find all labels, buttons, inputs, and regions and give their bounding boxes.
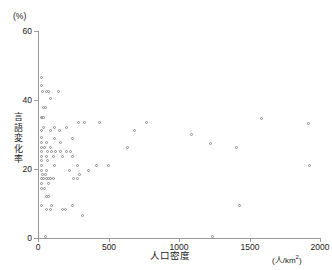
data-point — [47, 90, 50, 93]
data-point — [190, 133, 193, 136]
data-point — [41, 90, 44, 93]
scatter-chart: (%) 言語変化率 人口密度 (人/km2) 02040600500100015… — [0, 0, 332, 270]
data-point — [77, 121, 80, 124]
data-point — [53, 137, 56, 140]
data-point — [46, 159, 49, 162]
data-point — [308, 164, 311, 167]
data-point — [81, 214, 84, 217]
data-point — [98, 121, 101, 124]
data-point — [83, 121, 86, 124]
data-point — [47, 182, 50, 185]
data-point — [43, 146, 46, 149]
data-point — [260, 117, 263, 120]
data-point — [71, 204, 74, 207]
data-point — [78, 173, 81, 176]
data-point — [71, 155, 74, 158]
data-point — [65, 126, 68, 129]
data-point — [68, 169, 71, 172]
data-point — [54, 150, 57, 153]
data-point — [40, 155, 43, 158]
data-point — [307, 122, 310, 125]
data-point — [49, 97, 52, 100]
data-point — [53, 164, 56, 167]
data-point — [40, 204, 43, 207]
data-point — [49, 129, 52, 132]
data-point — [40, 159, 43, 162]
data-point — [44, 173, 47, 176]
data-point — [209, 142, 212, 145]
data-point — [145, 121, 148, 124]
data-point — [40, 182, 43, 185]
data-point — [46, 150, 49, 153]
data-point — [65, 150, 68, 153]
data-point — [53, 126, 56, 129]
data-point — [133, 129, 136, 132]
data-point — [61, 155, 64, 158]
data-point — [59, 141, 62, 144]
data-point — [72, 177, 75, 180]
data-point — [40, 141, 43, 144]
data-point — [107, 164, 110, 167]
data-point — [49, 146, 52, 149]
data-point — [42, 116, 45, 119]
data-point — [40, 76, 43, 79]
data-point — [40, 164, 43, 167]
data-point — [43, 187, 46, 190]
data-point — [45, 141, 48, 144]
data-point — [71, 137, 74, 140]
data-point — [50, 204, 53, 207]
data-point — [45, 208, 48, 211]
data-point — [44, 235, 47, 238]
data-point — [52, 177, 55, 180]
data-point — [57, 90, 60, 93]
data-point — [45, 169, 48, 172]
data-point — [40, 136, 43, 139]
data-point — [238, 204, 241, 207]
data-point — [59, 150, 62, 153]
data-point — [47, 195, 50, 198]
data-point — [211, 235, 214, 238]
data-points-layer — [0, 0, 332, 270]
data-point — [49, 208, 52, 211]
data-point — [235, 146, 238, 149]
data-point — [126, 146, 129, 149]
data-point — [76, 177, 79, 180]
data-point — [40, 129, 43, 132]
data-point — [45, 155, 48, 158]
data-point — [44, 106, 47, 109]
data-point — [95, 164, 98, 167]
data-point — [40, 169, 43, 172]
data-point — [64, 208, 67, 211]
data-point — [40, 84, 43, 87]
data-point — [87, 169, 90, 172]
data-point — [52, 155, 55, 158]
data-point — [40, 150, 43, 153]
data-point — [69, 150, 72, 153]
data-point — [58, 129, 61, 132]
data-point — [50, 150, 53, 153]
data-point — [76, 164, 79, 167]
